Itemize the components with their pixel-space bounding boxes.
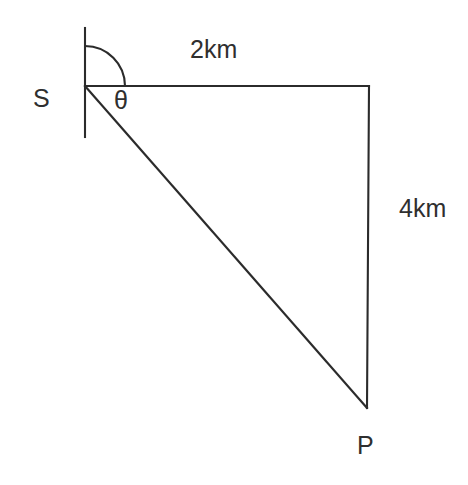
hypotenuse-line [85, 86, 367, 408]
geometry-diagram-canvas: S P θ 2km 4km [0, 0, 468, 485]
angle-label-theta: θ [114, 88, 128, 113]
vertex-label-p: P [357, 433, 374, 458]
side-length-label-top: 2km [190, 37, 237, 62]
right-side-line [367, 86, 369, 408]
angle-arc [85, 46, 125, 86]
diagram-svg [0, 0, 468, 485]
vertex-label-s: S [33, 86, 50, 111]
side-length-label-right: 4km [399, 196, 446, 221]
